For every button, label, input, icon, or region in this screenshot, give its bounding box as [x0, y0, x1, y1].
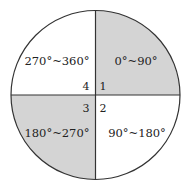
quadrant-3-number: 3	[83, 102, 90, 115]
quadrant-circle-diagram: 270°~360° 0°~90° 180°~270° 90°~180° 4 1 …	[0, 0, 188, 188]
quadrant-1-range-label: 0°~90°	[114, 54, 157, 68]
quadrant-4-range-label: 270°~360°	[24, 54, 89, 68]
quadrant-1-number: 1	[100, 80, 107, 93]
quadrant-3-range-label: 180°~270°	[24, 126, 89, 140]
quadrant-2-number: 2	[100, 102, 107, 115]
quadrant-1-region	[96, 11, 181, 96]
quadrant-4-number: 4	[83, 80, 90, 93]
quadrant-2-range-label: 90°~180°	[108, 126, 166, 140]
